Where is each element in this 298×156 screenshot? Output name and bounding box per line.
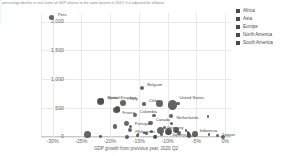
data-point[interactable]	[142, 102, 145, 105]
x-tick-label: 0%	[210, 139, 240, 144]
data-point-label: Spain	[107, 96, 117, 100]
y-tick-label: 1,500	[28, 48, 64, 53]
x-tick-label: -30%	[38, 139, 68, 144]
grid-line-horizontal	[41, 50, 231, 51]
y-tick-label: 500	[28, 106, 64, 111]
x-tick-label: -25%	[66, 139, 96, 144]
legend-label: Africa	[243, 9, 255, 14]
grid-line-vertical	[81, 13, 82, 137]
legend-item[interactable]: North America	[236, 31, 273, 39]
grid-line-vertical	[110, 13, 111, 137]
grid-line-horizontal	[41, 108, 231, 109]
y-axis-line	[41, 13, 42, 137]
grid-line-horizontal	[41, 79, 231, 80]
y-tick-label: 2,000	[28, 19, 64, 24]
legend: AfricaAsiaEuropeNorth AmericaSouth Ameri…	[236, 7, 273, 47]
data-point[interactable]	[156, 100, 163, 107]
data-point-label: United States	[179, 96, 204, 100]
data-point[interactable]	[207, 115, 210, 118]
grid-line-vertical	[225, 13, 226, 137]
x-tick-label: -15%	[124, 139, 154, 144]
legend-label: South America	[243, 41, 273, 46]
x-tick-label: -5%	[181, 139, 211, 144]
data-point-label: Canada	[156, 118, 170, 122]
legend-swatch-icon	[236, 41, 240, 45]
data-point[interactable]	[133, 113, 137, 117]
legend-item[interactable]: Asia	[236, 15, 273, 23]
legend-label: Europe	[243, 25, 258, 30]
data-point[interactable]	[113, 124, 117, 128]
data-point[interactable]	[169, 114, 174, 119]
data-point-label: Belgium	[147, 83, 162, 87]
x-tick-label: -20%	[95, 139, 125, 144]
data-point-label: Indonesia	[200, 129, 218, 133]
x-axis-title: GDP growth from previous year, 2020 Q2	[41, 147, 231, 152]
scatter-chart-figure: percentage decline in real terms of GDP …	[0, 0, 298, 156]
legend-item[interactable]: Europe	[236, 23, 273, 31]
legend-swatch-icon	[236, 33, 240, 37]
data-point[interactable]	[115, 106, 121, 112]
figure-caption: percentage decline in real terms of GDP …	[2, 0, 260, 7]
data-point[interactable]	[140, 86, 144, 90]
data-point[interactable]	[154, 135, 156, 137]
plot-area: PeruBelgiumUnited KingdomItalyFranceUnit…	[41, 13, 231, 137]
data-point-label: Italy	[130, 97, 138, 101]
x-tick-label: -10%	[153, 139, 183, 144]
data-point[interactable]	[128, 128, 132, 132]
legend-swatch-icon	[236, 25, 240, 29]
data-point[interactable]	[187, 133, 192, 138]
data-point-label: Netherlands	[176, 116, 198, 120]
legend-label: Asia	[243, 17, 252, 22]
legend-item[interactable]: South America	[236, 39, 273, 47]
legend-swatch-icon	[236, 17, 240, 21]
data-point[interactable]	[176, 102, 179, 105]
data-point[interactable]	[124, 121, 129, 126]
data-point[interactable]	[120, 100, 126, 106]
grid-line-horizontal	[41, 22, 231, 23]
legend-item[interactable]: Africa	[236, 7, 273, 15]
grid-line-vertical	[139, 13, 140, 137]
data-point[interactable]	[148, 121, 153, 126]
legend-swatch-icon	[236, 9, 240, 13]
data-point[interactable]	[192, 131, 198, 137]
grid-line-vertical	[53, 13, 54, 137]
legend-label: North America	[243, 33, 272, 38]
data-point-label: Peru	[58, 13, 67, 17]
y-tick-label: 1,000	[28, 77, 64, 82]
y-axis-title: Confirmed deaths per million people (Aug…	[0, 0, 2, 24]
